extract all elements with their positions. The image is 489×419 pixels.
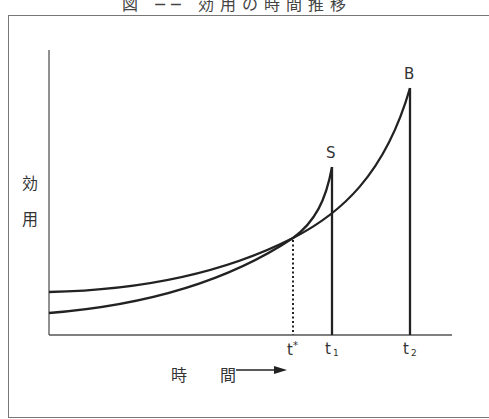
y-axis-label-char-1: 効 xyxy=(22,166,42,202)
tick-tstar: t* xyxy=(287,340,298,359)
curve-b xyxy=(49,88,410,292)
tick-t2-text: t xyxy=(403,340,409,358)
curve-s-label: S xyxy=(326,144,336,162)
tick-t2: t2 xyxy=(403,340,417,358)
time-arrow-icon xyxy=(274,366,287,374)
curve-b-label: B xyxy=(404,65,414,83)
x-axis-label: 時 間 xyxy=(171,362,250,386)
tick-t1-sub: 1 xyxy=(333,348,339,358)
y-axis-label-char-2: 用 xyxy=(22,202,42,238)
tick-t1-text: t xyxy=(325,340,331,358)
y-axis-label: 効 用 xyxy=(22,166,42,238)
tick-t1: t1 xyxy=(325,340,339,358)
tick-tstar-mark: * xyxy=(293,340,298,351)
tick-t2-sub: 2 xyxy=(411,348,417,358)
